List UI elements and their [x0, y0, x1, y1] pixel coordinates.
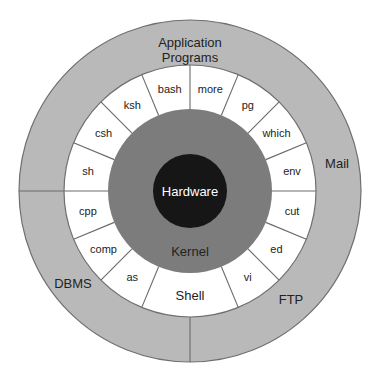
shell-segment-cpp: cpp	[79, 205, 97, 217]
shell-segment-which: which	[261, 127, 290, 139]
shell-segment-comp: comp	[90, 243, 117, 255]
shell-segment-vi: vi	[244, 271, 252, 283]
shell-segment-sh: sh	[82, 165, 94, 177]
shell-segment-ksh: ksh	[124, 99, 141, 111]
shell-segment-more: more	[198, 83, 223, 95]
outer-label-ftp: FTP	[279, 292, 304, 307]
shell-segment-as: as	[126, 271, 138, 283]
outer-label-application: Application	[158, 35, 222, 50]
shell-segment-ed: ed	[270, 243, 282, 255]
shell-segment-csh: csh	[95, 127, 112, 139]
unix-layers-diagram: shcshkshbashmorepgwhichenvcutedviascompc…	[0, 0, 380, 381]
outer-label-mail: Mail	[325, 156, 349, 171]
outer-label-dbms: DBMS	[54, 276, 92, 291]
shell-segment-env: env	[283, 165, 301, 177]
shell-segment-pg: pg	[242, 99, 254, 111]
hardware-label: Hardware	[162, 184, 218, 199]
outer-label-programs: Programs	[162, 50, 219, 65]
shell-segment-bash: bash	[158, 83, 182, 95]
shell-segment-cut: cut	[285, 205, 300, 217]
kernel-label: Kernel	[171, 244, 209, 259]
shell-label: Shell	[176, 288, 205, 303]
